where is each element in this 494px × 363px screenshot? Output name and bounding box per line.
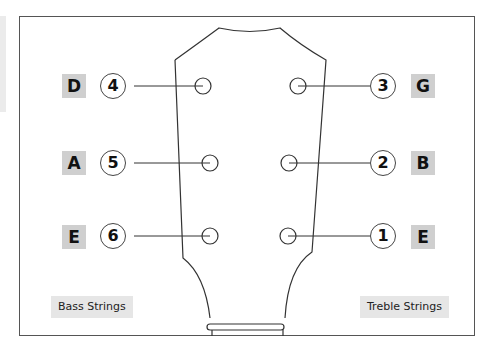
treble-strings-caption: Treble Strings	[360, 296, 449, 318]
note-label-string-2: B	[411, 151, 435, 175]
string-number-3: 3	[370, 73, 396, 99]
nut	[207, 324, 284, 330]
note-label-string-5: A	[62, 151, 86, 175]
note-label-string-4: D	[62, 74, 86, 98]
string-number-1: 1	[370, 223, 396, 249]
note-label-string-6: E	[62, 225, 86, 249]
note-label-string-3: G	[411, 74, 435, 98]
bass-strings-caption: Bass Strings	[51, 296, 133, 318]
string-number-4: 4	[100, 73, 126, 99]
string-number-2: 2	[370, 150, 396, 176]
string-number-6: 6	[100, 223, 126, 249]
string-number-5: 5	[100, 150, 126, 176]
note-label-string-1: E	[411, 225, 435, 249]
